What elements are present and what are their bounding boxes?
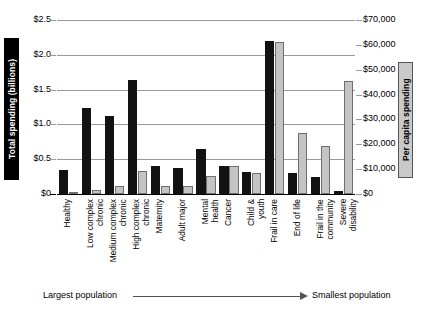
y-axis-left-tick-label: $1.0: [33, 119, 51, 128]
gridline: [57, 194, 355, 195]
bar-per-capita-spending: [229, 166, 238, 194]
category-label: Maternity: [155, 199, 165, 233]
bar-per-capita-spending: [298, 133, 307, 194]
y-axis-left-tick-mark: [50, 55, 56, 56]
category-label: Severe disability: [339, 199, 358, 231]
y-axis-right-tick-label: $40,000: [363, 90, 396, 99]
y-axis-right-tick-mark: [356, 70, 362, 71]
plot-area: [57, 20, 355, 194]
bar-total-spending: [219, 166, 228, 194]
y-axis-right-tick-label: $50,000: [363, 65, 396, 74]
y-axis-right-title: Per capita spending: [398, 62, 413, 178]
y-axis-right-tick-label: $70,000: [363, 15, 396, 24]
y-axis-left-tick-label: $1.5: [33, 85, 51, 94]
y-axis-left-tick-label: $2.0: [33, 50, 51, 59]
y-axis-right-tick-label: $10,000: [363, 164, 396, 173]
bar-group: [288, 20, 307, 194]
category-label: High complex chronic: [132, 199, 151, 250]
bar-group: [265, 20, 284, 194]
bar-per-capita-spending: [92, 190, 101, 194]
bar-per-capita-spending: [344, 81, 353, 194]
bar-group: [196, 20, 215, 194]
bar-group: [311, 20, 330, 194]
bar-group: [219, 20, 238, 194]
y-axis-right-tick-mark: [356, 194, 362, 195]
bar-group: [173, 20, 192, 194]
y-axis-left-tick-mark: [50, 124, 56, 125]
bar-total-spending: [59, 170, 68, 194]
y-axis-left-title: Total spending (billions): [4, 38, 19, 180]
bar-total-spending: [151, 166, 160, 194]
bar-group: [82, 20, 101, 194]
category-label: Cancer: [224, 199, 234, 226]
y-axis-left-tick-label: $0.5: [33, 154, 51, 163]
category-label: Child & youth: [247, 199, 266, 226]
bar-total-spending: [311, 177, 320, 194]
y-axis-left-tick-mark: [50, 194, 56, 195]
bar-per-capita-spending: [275, 42, 284, 194]
bar-total-spending: [334, 191, 343, 194]
bar-per-capita-spending: [321, 146, 330, 194]
y-axis-right-tick-label: $30,000: [363, 114, 396, 123]
bar-group: [105, 20, 124, 194]
bar-total-spending: [173, 168, 182, 194]
bar-total-spending: [82, 108, 91, 194]
bar-per-capita-spending: [115, 186, 124, 194]
bar-group: [242, 20, 261, 194]
category-label: End of life: [293, 199, 303, 236]
annotation-right-text: Smallest population: [312, 290, 391, 300]
bar-per-capita-spending: [138, 171, 147, 194]
y-axis-left-tick-mark: [50, 90, 56, 91]
y-axis-right-tick-mark: [356, 95, 362, 96]
category-label: Frail in care: [270, 199, 280, 243]
population-annotation: Largest population Smallest population: [0, 290, 427, 306]
bar-total-spending: [265, 41, 274, 194]
category-label: Medium complex chronic: [109, 199, 128, 262]
bar-total-spending: [288, 173, 297, 194]
annotation-arrow-line: [133, 296, 301, 297]
y-axis-left-tick-mark: [50, 20, 56, 21]
category-label: Healthy: [63, 199, 73, 227]
bar-group: [334, 20, 353, 194]
y-axis-left-tick-mark: [50, 159, 56, 160]
y-axis-right-tick-label: $20,000: [363, 139, 396, 148]
y-axis-left-tick-label: $2.5: [33, 15, 51, 24]
dual-axis-bar-chart: Total spending (billions) Per capita spe…: [0, 0, 427, 313]
bar-per-capita-spending: [161, 186, 170, 194]
category-label: Mental health: [201, 199, 220, 224]
annotation-arrow-head-icon: [300, 292, 308, 300]
y-axis-right-tick-mark: [356, 169, 362, 170]
category-label: Frail in the community: [316, 199, 335, 240]
y-axis-right-tick-mark: [356, 119, 362, 120]
bar-per-capita-spending: [252, 173, 261, 194]
bar-per-capita-spending: [183, 186, 192, 194]
y-axis-right-tick-mark: [356, 20, 362, 21]
y-axis-right-tick-label: $60,000: [363, 40, 396, 49]
bar-group: [59, 20, 78, 194]
bar-group: [151, 20, 170, 194]
bar-per-capita-spending: [206, 176, 215, 194]
bar-total-spending: [242, 172, 251, 194]
bar-group: [128, 20, 147, 194]
category-label: Adult major: [178, 199, 188, 241]
bar-series-container: [57, 20, 355, 194]
category-label: Low complex chronic: [86, 199, 105, 248]
annotation-left-text: Largest population: [43, 290, 117, 300]
bar-total-spending: [105, 116, 114, 194]
bar-total-spending: [196, 149, 205, 194]
bar-per-capita-spending: [69, 192, 78, 194]
y-axis-right-tick-label: $0: [363, 189, 373, 198]
bar-total-spending: [128, 80, 137, 194]
y-axis-right-tick-mark: [356, 45, 362, 46]
y-axis-right-tick-mark: [356, 144, 362, 145]
